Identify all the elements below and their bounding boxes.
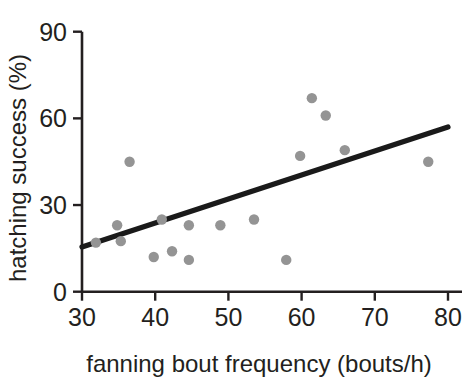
plot-canvas: 0306090 304050607080 fanning bout freque…	[0, 0, 474, 386]
data-point	[91, 237, 101, 247]
data-point	[321, 110, 331, 120]
x-tick-label: 70	[361, 303, 389, 331]
data-point	[423, 157, 433, 167]
x-axis-tick-labels: 304050607080	[68, 303, 462, 331]
x-axis-title: fanning bout frequency (bouts/h)	[86, 350, 432, 377]
data-point	[184, 255, 194, 265]
data-point	[184, 220, 194, 230]
x-tick-label: 80	[434, 303, 462, 331]
data-point	[281, 255, 291, 265]
data-point	[157, 214, 167, 224]
data-point	[340, 145, 350, 155]
regression-trend-line	[82, 127, 448, 247]
y-tick-label: 60	[39, 104, 67, 132]
data-point	[167, 246, 177, 256]
x-tick-label: 40	[141, 303, 169, 331]
axis-lines	[82, 32, 462, 292]
y-axis-title: hatching success (%)	[4, 54, 31, 282]
x-tick-label: 50	[214, 303, 242, 331]
y-tick-label: 90	[39, 18, 67, 46]
data-point	[116, 236, 126, 246]
y-axis-tick-labels: 0306090	[39, 18, 67, 306]
scatter-plot-figure: 0306090 304050607080 fanning bout freque…	[0, 0, 474, 386]
y-tick-label: 0	[53, 278, 67, 306]
data-point	[295, 151, 305, 161]
data-point	[307, 93, 317, 103]
data-point	[149, 252, 159, 262]
data-point	[112, 220, 122, 230]
data-point	[124, 157, 134, 167]
data-point	[215, 220, 225, 230]
y-tick-label: 30	[39, 191, 67, 219]
data-point-group	[91, 93, 434, 265]
x-tick-label: 30	[68, 303, 96, 331]
x-tick-label: 60	[288, 303, 316, 331]
data-point	[249, 214, 259, 224]
